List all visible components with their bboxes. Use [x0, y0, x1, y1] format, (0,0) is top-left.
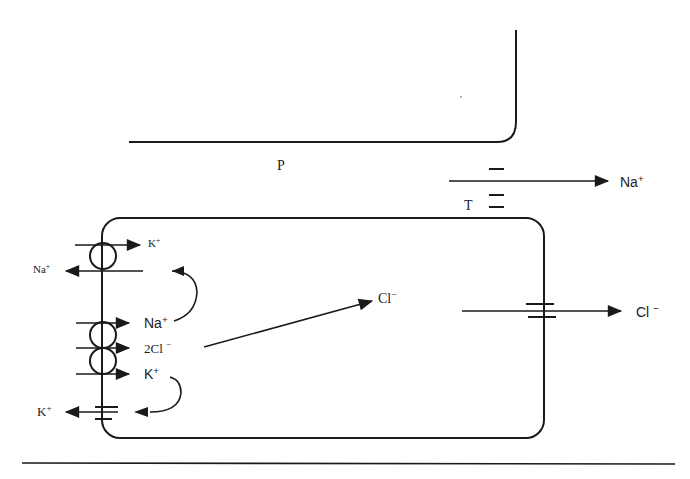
ion-symbol: Cl: [636, 304, 649, 320]
ion-charge: −: [653, 303, 659, 314]
label-paracellular-na: Na+: [620, 174, 644, 189]
label-pump-k: K+: [148, 237, 160, 249]
ion-symbol: Na: [620, 174, 638, 190]
ion-symbol: Na: [144, 315, 162, 331]
ion-symbol: K: [37, 404, 46, 419]
cell-membrane: [102, 218, 544, 438]
label-p: P: [277, 159, 285, 173]
ion-symbol: Na: [33, 263, 46, 275]
intracellular-cl-arrow: [204, 301, 372, 347]
label-cotransport-cl: 2Cl −: [144, 341, 171, 355]
label-pump-na: Na+: [33, 263, 50, 275]
label-t: T: [464, 199, 473, 213]
ion-charge: −: [391, 289, 397, 300]
ion-symbol: K: [148, 237, 156, 249]
label-cotransport-na: Na+: [144, 315, 168, 330]
ion-symbol: K: [144, 366, 153, 382]
label-channel-k: K+: [37, 404, 52, 418]
k-recycle-arrowhead: [134, 407, 148, 417]
ion-symbol: Cl: [378, 291, 391, 306]
na-recycle-curve: [172, 271, 197, 321]
ion-charge: +: [46, 262, 50, 271]
ion-charge: −: [166, 340, 171, 350]
ion-charge: +: [153, 365, 159, 376]
bottom-baseline: [22, 463, 675, 464]
label-apical-cl: Cl −: [636, 304, 659, 319]
label-intracellular-cl: Cl−: [378, 290, 397, 306]
ion-charge: +: [156, 236, 160, 245]
ion-charge: +: [638, 173, 644, 184]
na-recycle-arrowhead: [172, 266, 184, 276]
ion-charge: +: [162, 314, 168, 325]
ion-symbol: 2Cl: [144, 341, 163, 356]
upper-cell-boundary: [129, 30, 516, 142]
label-cotransport-k: K+: [144, 366, 159, 381]
diagram-canvas: P T Na+ K+ Na+ Na+ 2Cl − K+ K+ Cl− Cl −: [0, 0, 690, 479]
diagram-svg: [0, 0, 690, 479]
k-recycle-curve: [150, 377, 181, 412]
ion-charge: +: [46, 403, 51, 413]
speck: [460, 96, 462, 98]
